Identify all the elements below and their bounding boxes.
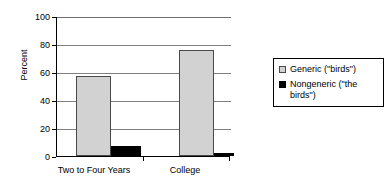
- gridline-80: [57, 45, 231, 46]
- legend-label-nongeneric: Nongeneric ("the birds"): [290, 79, 378, 101]
- legend-item-generic: Generic ("birds"): [279, 64, 378, 75]
- bar-chart: Percent 100 80 60 40 20 0 Two to Four Ye…: [0, 0, 390, 190]
- y-tick-label-20: 20: [24, 125, 50, 134]
- x-tick-label-college: College: [141, 165, 229, 176]
- bar-generic-two-to-four-years: [76, 76, 111, 156]
- legend-item-nongeneric: Nongeneric ("the birds"): [279, 79, 378, 101]
- x-tick-mark-end: [229, 157, 230, 161]
- legend-swatch-nongeneric-icon: [279, 81, 286, 88]
- plot-area: [56, 17, 230, 157]
- legend-label-generic: Generic ("birds"): [290, 64, 356, 75]
- y-tick-mark-0: [52, 157, 56, 158]
- x-tick-label-two-to-four-years: Two to Four Years: [44, 165, 144, 176]
- legend-swatch-generic-icon: [279, 66, 286, 73]
- gridline-100: [57, 17, 231, 18]
- bar-nongeneric-two-to-four-years: [111, 146, 141, 156]
- legend: Generic ("birds") Nongeneric ("the birds…: [273, 58, 384, 107]
- y-tick-label-0: 0: [24, 153, 50, 162]
- y-tick-label-100: 100: [24, 13, 50, 22]
- x-tick-mark-divider: [143, 157, 144, 161]
- bar-nongeneric-college: [214, 153, 234, 156]
- bar-generic-college: [179, 50, 214, 156]
- y-tick-label-40: 40: [24, 97, 50, 106]
- y-tick-label-60: 60: [24, 69, 50, 78]
- y-tick-label-80: 80: [24, 41, 50, 50]
